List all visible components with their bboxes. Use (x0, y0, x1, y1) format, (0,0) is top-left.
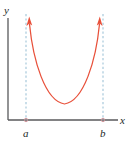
graph-canvas: y x a b (0, 0, 131, 146)
x-axis-label: x (119, 114, 125, 126)
function-curve (30, 24, 100, 104)
x-tick-label-a: a (23, 127, 29, 139)
x-tick-label-b: b (100, 127, 106, 139)
figure-container: y x a b (0, 0, 131, 146)
y-axis-label: y (3, 4, 9, 16)
